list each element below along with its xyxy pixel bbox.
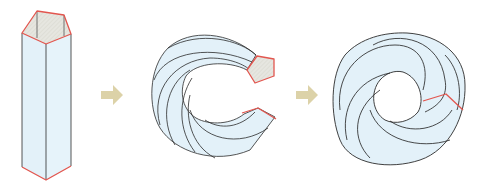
prism-left-face: [22, 33, 46, 180]
prism-right-face: [46, 34, 71, 180]
straight-pentagonal-prism: [22, 11, 71, 180]
step-arrow-2: [296, 85, 318, 105]
prism-to-torus-diagram: [0, 0, 486, 187]
step-arrow-1: [101, 85, 123, 105]
bent-c-shaped-prism: [152, 35, 276, 158]
closed-twisted-torus: [333, 33, 465, 165]
torus-hole: [374, 71, 421, 122]
c-shape-body: [152, 35, 275, 156]
